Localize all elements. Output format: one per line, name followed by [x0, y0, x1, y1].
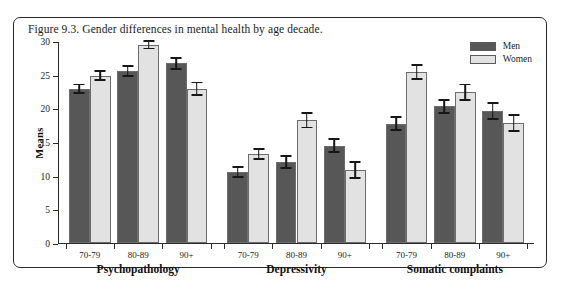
error-bar-cap-top	[460, 84, 471, 86]
bar-women-80-89	[138, 45, 159, 243]
bar-women-90+	[503, 123, 524, 243]
error-bar-cap-bottom	[95, 79, 106, 81]
error-bar-men-80-89	[117, 65, 138, 77]
y-tick-25	[53, 76, 58, 77]
y-tick-10	[53, 177, 58, 178]
x-tick-separator	[321, 244, 322, 249]
y-tick-label-10: 10	[41, 172, 51, 182]
y-tick-label-15: 15	[41, 138, 51, 148]
bars-layer	[59, 42, 534, 243]
x-group-label-depressivity: Depressivity	[266, 263, 326, 275]
error-bar-cap-top	[487, 102, 498, 104]
bar-men-70-79	[386, 124, 407, 243]
error-bar-cap-top	[74, 84, 85, 86]
bar-men-70-79	[227, 172, 248, 243]
bar-men-70-79	[69, 89, 90, 243]
error-bar-cap-bottom	[281, 167, 292, 169]
error-bar-men-90+	[324, 138, 345, 153]
x-decade-label-90+: 90+	[338, 250, 352, 260]
error-bar-men-80-89	[276, 155, 297, 168]
y-tick-label-0: 0	[45, 239, 50, 249]
error-bar-cap-top	[391, 116, 402, 118]
error-bar-cap-bottom	[74, 92, 85, 94]
x-group-label-psychopathology: Psychopathology	[97, 263, 180, 275]
x-group-separator	[211, 244, 212, 249]
x-group-separator	[527, 244, 528, 249]
error-bar-cap-bottom	[122, 75, 133, 77]
error-bar-cap-bottom	[391, 129, 402, 131]
bar-women-70-79	[406, 72, 427, 243]
y-tick-label-25: 25	[41, 71, 51, 81]
x-tick-separator	[114, 244, 115, 249]
bar-men-90+	[166, 63, 187, 243]
bar-men-90+	[324, 146, 345, 243]
y-tick-label-20: 20	[41, 104, 51, 114]
error-bar-cap-top	[232, 166, 243, 168]
x-tick-separator	[431, 244, 432, 249]
x-tick-separator	[272, 244, 273, 249]
bar-men-80-89	[276, 162, 297, 243]
y-tick-label-5: 5	[45, 205, 50, 215]
bar-women-90+	[187, 89, 208, 243]
bar-men-90+	[482, 111, 503, 243]
x-decade-label-80-89: 80-89	[286, 250, 307, 260]
error-bar-cap-bottom	[508, 130, 519, 132]
error-bar-men-70-79	[69, 84, 90, 95]
error-bar-cap-top	[122, 65, 133, 67]
error-bar-cap-top	[439, 99, 450, 101]
y-tick-5	[53, 210, 58, 211]
error-bar-cap-top	[143, 40, 154, 42]
figure-caption: Figure 9.3. Gender differences in mental…	[28, 23, 323, 35]
error-bar-men-90+	[166, 57, 187, 70]
figure-frame: Figure 9.3. Gender differences in mental…	[13, 17, 547, 268]
error-bar-cap-bottom	[329, 151, 340, 153]
error-bar-cap-bottom	[191, 94, 202, 96]
bar-women-80-89	[297, 120, 318, 243]
y-tick-0	[53, 244, 58, 245]
error-bar-cap-top	[191, 82, 202, 84]
error-bar-women-80-89	[455, 84, 476, 101]
error-bar-cap-bottom	[253, 158, 264, 160]
error-bar-men-90+	[482, 102, 503, 119]
error-bar-cap-bottom	[232, 176, 243, 178]
error-bar-cap-top	[329, 138, 340, 140]
error-bar-women-80-89	[297, 112, 318, 128]
error-bar-women-90+	[503, 114, 524, 131]
error-bar-cap-top	[253, 148, 264, 150]
error-bar-cap-bottom	[460, 99, 471, 101]
error-bar-women-90+	[345, 161, 366, 178]
error-bar-men-70-79	[227, 166, 248, 178]
x-decade-label-70-79: 70-79	[238, 250, 259, 260]
error-bar-cap-bottom	[439, 112, 450, 114]
y-tick-30	[53, 42, 58, 43]
error-bar-women-90+	[187, 82, 208, 97]
error-bar-cap-top	[301, 112, 312, 114]
error-bar-women-70-79	[90, 70, 111, 81]
bar-women-80-89	[455, 92, 476, 243]
error-bar-women-80-89	[138, 40, 159, 49]
x-tick-separator	[162, 244, 163, 249]
error-bar-cap-top	[281, 155, 292, 157]
bar-women-90+	[345, 170, 366, 243]
x-group-separator	[224, 244, 225, 249]
x-decade-label-80-89: 80-89	[128, 250, 149, 260]
x-group-separator	[382, 244, 383, 249]
x-decade-label-70-79: 70-79	[79, 250, 100, 260]
x-decade-label-90+: 90+	[179, 250, 193, 260]
error-bar-cap-bottom	[143, 48, 154, 50]
bar-men-80-89	[117, 71, 138, 243]
error-bar-cap-bottom	[487, 118, 498, 120]
x-axis-labels: 70-7980-8990+Psychopathology70-7980-8990…	[59, 244, 534, 284]
x-group-separator	[66, 244, 67, 249]
error-bar-cap-bottom	[350, 177, 361, 179]
plot-area: Means 051015202530 70-7980-8990+Psychopa…	[58, 42, 534, 244]
x-decade-label-70-79: 70-79	[396, 250, 417, 260]
bar-women-70-79	[248, 154, 269, 243]
error-bar-cap-top	[171, 57, 182, 59]
error-bar-men-80-89	[434, 99, 455, 114]
error-bar-women-70-79	[406, 64, 427, 80]
error-bar-cap-bottom	[301, 127, 312, 129]
x-group-separator	[369, 244, 370, 249]
error-bar-women-70-79	[248, 148, 269, 160]
y-tick-15	[53, 143, 58, 144]
